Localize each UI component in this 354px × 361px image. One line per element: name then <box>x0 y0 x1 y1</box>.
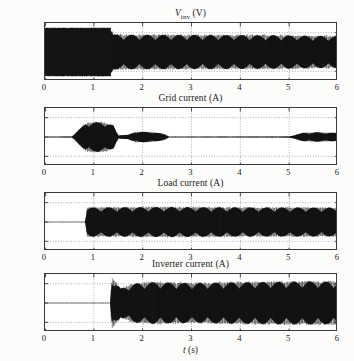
plot-area-inverter-current <box>44 273 337 331</box>
x-tick-label: 4 <box>237 334 241 343</box>
x-tick-label: 1 <box>91 168 95 177</box>
x-axis-title-unit: (s) <box>186 345 198 355</box>
subplot-inverter-current <box>44 273 337 331</box>
x-tick-label: 4 <box>237 168 241 177</box>
panel-title-load-current: Load current (A) <box>44 178 337 188</box>
x-tick-label: 2 <box>140 334 144 343</box>
plot-area-load-current <box>44 192 337 250</box>
x-tick-label: 5 <box>286 168 290 177</box>
x-tick-label: 2 <box>140 168 144 177</box>
x-tick-label: 6 <box>335 334 339 343</box>
panel-title-inverter-current: Inverter current (A) <box>44 259 337 269</box>
x-tick-label: 0 <box>42 334 46 343</box>
x-axis-title: t (s) <box>44 345 337 355</box>
x-tick-label: 3 <box>188 83 192 92</box>
x-tick-label: 3 <box>188 334 192 343</box>
x-tick-label: 1 <box>91 83 95 92</box>
x-tick-label: 5 <box>286 334 290 343</box>
panel-title-grid-current: Grid current (A) <box>44 93 337 103</box>
x-tick-label: 1 <box>91 334 95 343</box>
x-tick-label: 0 <box>42 168 46 177</box>
panel-title-inverter-voltage: Vinv (V) <box>44 8 337 21</box>
subplot-grid-current <box>44 107 337 165</box>
x-tick-label: 3 <box>188 168 192 177</box>
x-tick-label: 0 <box>42 83 46 92</box>
x-tick-label: 2 <box>140 83 144 92</box>
plot-area-inverter-voltage <box>44 22 337 80</box>
figure-canvas: Vinv (V) 2000−200 0123456 Grid current (… <box>0 0 354 361</box>
x-tick-label: 6 <box>335 83 339 92</box>
x-tick-label: 5 <box>286 83 290 92</box>
x-tick-label: 6 <box>335 168 339 177</box>
subplot-load-current <box>44 192 337 250</box>
plot-area-grid-current <box>44 107 337 165</box>
x-tick-label: 4 <box>237 83 241 92</box>
subplot-inverter-voltage <box>44 22 337 80</box>
